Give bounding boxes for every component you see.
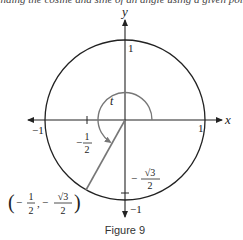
y-coordinate-label: − √3 2: [131, 167, 160, 191]
y-tick-label-pos-one: 1: [128, 42, 134, 54]
angle-label-t: t: [110, 94, 114, 108]
terminal-side-line: [86, 120, 125, 190]
y-tick-label-neg-one: −1: [130, 203, 142, 215]
unit-circle-diagram: Finding the cosine and sine of an angle …: [0, 0, 243, 240]
svg-text:√3: √3: [145, 167, 156, 178]
y-axis-label: y: [120, 4, 128, 19]
svg-text:2: 2: [85, 144, 90, 155]
svg-text:1: 1: [29, 191, 34, 202]
x-tick-label-pos-one: 1: [198, 122, 204, 134]
svg-text:1: 1: [85, 131, 90, 142]
svg-text:−: −: [76, 136, 82, 148]
svg-text:,: ,: [37, 197, 40, 209]
figure-caption: Figure 9: [105, 224, 145, 236]
svg-text:−: −: [131, 172, 137, 184]
svg-text:): ): [74, 191, 81, 214]
x-axis-label: x: [224, 112, 231, 127]
x-coordinate-label: − 1 2: [76, 131, 92, 155]
point-coordinate-label: ( − 1 2 , − √3 2 ): [8, 191, 81, 216]
svg-text:√3: √3: [58, 191, 69, 202]
svg-text:−: −: [42, 196, 48, 208]
svg-text:(: (: [8, 191, 15, 214]
x-tick-label-neg-one: −1: [32, 124, 44, 136]
svg-text:−: −: [16, 196, 22, 208]
svg-text:2: 2: [29, 205, 34, 216]
svg-text:2: 2: [61, 205, 66, 216]
svg-text:2: 2: [148, 180, 153, 191]
